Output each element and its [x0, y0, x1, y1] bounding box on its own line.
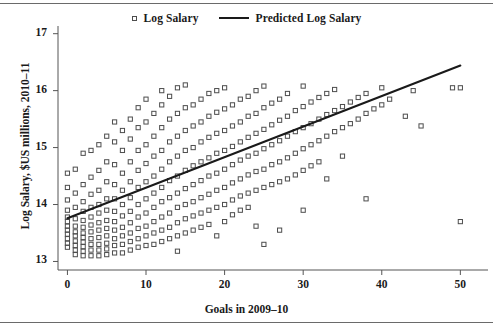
y-tick-label: 14 [25, 197, 47, 209]
scatter-point [144, 224, 148, 228]
scatter-point [152, 220, 156, 224]
scatter-point [356, 95, 360, 99]
scatter-point [136, 185, 140, 189]
scatter-point [160, 148, 164, 152]
scatter-point [97, 248, 101, 252]
scatter-point [128, 196, 132, 200]
scatter-point [372, 107, 376, 111]
y-tick-label: 16 [25, 83, 47, 95]
scatter-point [120, 251, 124, 255]
y-tick-label: 13 [25, 253, 47, 265]
scatter-point [73, 217, 77, 221]
scatter-point [278, 160, 282, 164]
chart-legend: Log Salary Predicted Log Salary [0, 9, 493, 27]
scatter-point [128, 117, 132, 121]
scatter-point [270, 101, 274, 105]
scatter-point [160, 89, 164, 93]
scatter-point [223, 107, 227, 111]
scatter-point [175, 154, 179, 158]
scatter-point [215, 89, 219, 93]
scatter-point [223, 86, 227, 90]
scatter-point [105, 134, 109, 138]
scatter-point [215, 188, 219, 192]
scatter-point [136, 215, 140, 219]
scatter-point [120, 225, 124, 229]
scatter-point [160, 185, 164, 189]
scatter-point [120, 234, 124, 238]
scatter-point [223, 167, 227, 171]
scatter-point [450, 86, 454, 90]
scatter-point [152, 174, 156, 178]
scatter-point [262, 147, 266, 151]
scatter-points [65, 83, 462, 258]
scatter-point [262, 84, 266, 88]
chart-figure: Log Salary Predicted Log Salary Log Sala… [0, 0, 493, 330]
scatter-point [301, 84, 305, 88]
scatter-point [81, 249, 85, 253]
scatter-point [254, 151, 258, 155]
scatter-point [175, 221, 179, 225]
scatter-point [262, 167, 266, 171]
scatter-point [309, 100, 313, 104]
scatter-point [230, 163, 234, 167]
scatter-point [207, 91, 211, 95]
scatter-point [160, 126, 164, 130]
scatter-point [199, 211, 203, 215]
scatter-point [160, 228, 164, 232]
scatter-point [120, 128, 124, 132]
bottom-divider [0, 322, 493, 323]
scatter-point [97, 242, 101, 246]
scatter-point [97, 168, 101, 172]
scatter-point [238, 158, 242, 162]
scatter-point [270, 182, 274, 186]
scatter-point [97, 143, 101, 147]
scatter-point [167, 211, 171, 215]
scatter-point [97, 254, 101, 258]
scatter-point [73, 224, 77, 228]
scatter-point [199, 225, 203, 229]
scatter-point [105, 197, 109, 201]
scatter-point [136, 106, 140, 110]
scatter-point [128, 248, 132, 252]
scatter-point [89, 215, 93, 219]
scatter-point [207, 192, 211, 196]
scatter-point [105, 247, 109, 251]
legend-entry-predicted-log-salary: Predicted Log Salary [219, 12, 362, 24]
scatter-point [160, 215, 164, 219]
scatter-point [199, 140, 203, 144]
scatter-point [73, 239, 77, 243]
scatter-point [380, 86, 384, 90]
scatter-point [278, 139, 282, 143]
scatter-point [183, 128, 187, 132]
x-tick-label: 50 [445, 278, 475, 290]
scatter-point [340, 104, 344, 108]
scatter-point [183, 202, 187, 206]
scatter-point [223, 220, 227, 224]
scatter-point [262, 127, 266, 131]
scatter-point [317, 95, 321, 99]
scatter-point [175, 111, 179, 115]
scatter-point [89, 223, 93, 227]
scatter-point [238, 140, 242, 144]
scatter-point [175, 234, 179, 238]
scatter-point [254, 224, 258, 228]
scatter-point [325, 177, 329, 181]
scatter-point [183, 186, 187, 190]
scatter-point [230, 124, 234, 128]
scatter-point [191, 228, 195, 232]
scatter-point [89, 248, 93, 252]
scatter-point [278, 228, 282, 232]
scatter-point [246, 205, 250, 209]
scatter-point [191, 124, 195, 128]
scatter-point [340, 126, 344, 130]
legend-label-log-salary: Log Salary [144, 12, 199, 24]
scatter-point [419, 124, 423, 128]
x-axis-label: Goals in 2009–10 [0, 303, 493, 315]
scatter-point [136, 126, 140, 130]
scatter-point [73, 167, 77, 171]
scatter-point [81, 254, 85, 258]
scatter-point [254, 188, 258, 192]
scatter-point [238, 177, 242, 181]
scatter-point [230, 144, 234, 148]
scatter-point [364, 91, 368, 95]
